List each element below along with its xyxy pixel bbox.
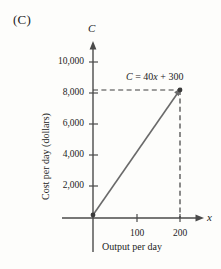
y-axis-title: Cost per day (dollars) bbox=[40, 113, 51, 200]
equation-equals: = bbox=[133, 71, 144, 82]
y-tick-label-4000: 4,000 bbox=[24, 149, 84, 159]
x-axis-title: Output per day bbox=[102, 241, 162, 252]
x-axis-variable-label: x bbox=[207, 211, 212, 223]
y-tick-label-2000: 2,000 bbox=[24, 180, 84, 190]
equation-plus: + bbox=[158, 71, 169, 82]
y-axis-variable-label: C bbox=[88, 22, 95, 34]
y-tick-label-6000: 6,000 bbox=[24, 118, 84, 128]
equation-annotation: C = 40x + 300 bbox=[126, 71, 183, 82]
equation-intercept: 300 bbox=[168, 71, 183, 82]
cost-function-line bbox=[93, 94, 177, 215]
equation-slope: 40 bbox=[143, 71, 153, 82]
x-tick-label-100: 100 bbox=[117, 228, 157, 238]
x-axis-arrow-icon bbox=[196, 215, 205, 222]
y-tick-label-10000: 10,000 bbox=[24, 56, 84, 66]
equation-lhs: C bbox=[126, 71, 133, 82]
data-point-200 bbox=[178, 88, 183, 93]
x-tick-label-200: 200 bbox=[160, 228, 200, 238]
y-axis-arrow-icon bbox=[90, 41, 97, 50]
figure-panel-c: (C) 10,000 8,000 6,000 4,000 2,000 100 2… bbox=[0, 0, 221, 269]
y-tick-label-8000: 8,000 bbox=[24, 87, 84, 97]
data-point-intercept bbox=[91, 213, 96, 218]
